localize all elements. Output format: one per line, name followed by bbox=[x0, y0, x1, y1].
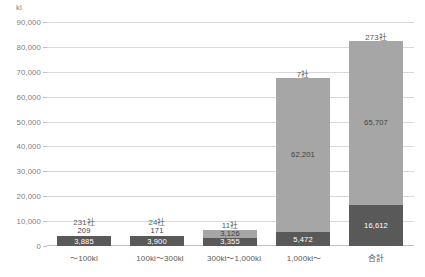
gridline bbox=[47, 22, 414, 23]
bar-segment-lower[interactable]: 16,612 bbox=[349, 205, 403, 246]
y-tick-label: 0 bbox=[0, 242, 41, 251]
y-tick-label: 50,000 bbox=[0, 117, 41, 126]
bar-value-label: 209 bbox=[57, 226, 111, 235]
y-tick-label: 40,000 bbox=[0, 142, 41, 151]
bar-value-label: 16,612 bbox=[364, 221, 388, 230]
bar-group: 65,707 16,612 bbox=[349, 41, 403, 246]
y-tick-label: 20,000 bbox=[0, 192, 41, 201]
bar-value-label: 3,355 bbox=[220, 237, 240, 246]
y-tick-label: 90,000 bbox=[0, 18, 41, 27]
bar-group: 3,126 3,355 bbox=[203, 230, 257, 246]
bar-value-label: 3,900 bbox=[147, 237, 167, 246]
y-tick-label: 10,000 bbox=[0, 217, 41, 226]
bar-value-label: 62,201 bbox=[291, 150, 315, 159]
company-count-label: 11社 bbox=[203, 219, 257, 230]
bar-group: 3,900 bbox=[130, 236, 184, 246]
y-tick-label: 80,000 bbox=[0, 42, 41, 51]
bar-value-label: 65,707 bbox=[364, 118, 388, 127]
company-count-label: 231社 bbox=[57, 216, 111, 227]
x-axis-category-label: 1,000kl～ bbox=[264, 252, 344, 263]
x-axis-category-label: ～100kl bbox=[44, 252, 124, 263]
bar-segment-lower[interactable]: 3,900 bbox=[130, 236, 184, 246]
bar-segment-lower[interactable]: 5,472 bbox=[276, 232, 330, 246]
bar-value-label: 5,472 bbox=[293, 235, 313, 244]
bar-group: 3,885 bbox=[57, 236, 111, 246]
company-count-label: 7社 bbox=[276, 68, 330, 79]
company-count-label: 24社 bbox=[130, 216, 184, 227]
bar-segment-upper[interactable]: 62,201 bbox=[276, 78, 330, 233]
y-tick-mark bbox=[43, 246, 47, 247]
plot-area: 3,885 209 3,900 171 3,126 3,355 62,201 bbox=[47, 22, 414, 246]
bar-segment-upper[interactable]: 65,707 bbox=[349, 41, 403, 205]
x-axis-category-label: 合計 bbox=[342, 252, 410, 263]
y-tick-label: 70,000 bbox=[0, 67, 41, 76]
bar-value-label: 3,885 bbox=[74, 237, 94, 246]
bar-segment-lower[interactable]: 3,885 bbox=[57, 236, 111, 246]
bar-segment-lower[interactable]: 3,355 bbox=[203, 238, 257, 246]
y-tick-label: 60,000 bbox=[0, 92, 41, 101]
y-tick-label: 30,000 bbox=[0, 167, 41, 176]
company-count-label: 273社 bbox=[349, 31, 403, 42]
bar-value-label: 171 bbox=[130, 226, 184, 235]
bar-group: 62,201 5,472 bbox=[276, 78, 330, 247]
stacked-bar-chart: kl 90,000 80,000 70,000 60,000 50,000 40… bbox=[0, 0, 425, 277]
